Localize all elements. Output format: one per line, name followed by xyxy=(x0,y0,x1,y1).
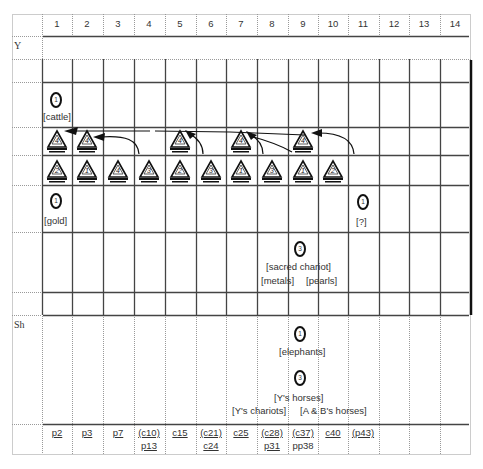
circle-number: 1 xyxy=(52,197,60,204)
triangle-symbol-icon: 1 xyxy=(292,159,314,183)
column-header: 6 xyxy=(196,18,226,29)
circle-number: 3 xyxy=(296,374,304,381)
column-header: 7 xyxy=(226,18,256,29)
triangle-symbol-icon: 2 xyxy=(322,159,344,183)
circle-symbol-sacred-chariot: 3 xyxy=(294,241,306,257)
label-ys-chariots: [Y's chariots] xyxy=(232,405,286,416)
footer-ref-secondary: pp38 xyxy=(288,440,318,451)
triangle-number: 2 xyxy=(322,167,344,174)
circle-number: 1 xyxy=(52,96,60,103)
column-header: 11 xyxy=(348,18,378,29)
column-header: 9 xyxy=(288,18,318,29)
triangle-number: 4 xyxy=(46,137,68,144)
row-label-y: Y xyxy=(14,40,21,51)
label-pearls: [pearls] xyxy=(306,275,337,286)
label-ys-horses: [Y's horses] xyxy=(274,392,323,403)
circle-symbol-elephants: 1 xyxy=(294,326,306,342)
triangle-symbol-icon: 1 xyxy=(76,159,98,183)
column-header: 2 xyxy=(72,18,102,29)
footer-ref-secondary: p31 xyxy=(257,440,287,451)
footer-ref: c40 xyxy=(318,427,348,438)
label-ab-horses: [A & B's horses] xyxy=(300,405,367,416)
circle-number: 3 xyxy=(296,245,304,252)
label-cattle: [cattle] xyxy=(43,111,71,122)
triangle-symbol-icon: 2 xyxy=(169,159,191,183)
circle-symbol-cattle: 1 xyxy=(50,92,62,108)
triangle-number: 4 xyxy=(76,137,98,144)
column-header: 3 xyxy=(103,18,133,29)
label-gold: [gold] xyxy=(44,215,67,226)
label-metals: [metals] xyxy=(261,275,294,286)
footer-ref: p2 xyxy=(42,427,72,438)
footer-ref: c15 xyxy=(165,427,195,438)
triangle-number: 1 xyxy=(76,167,98,174)
triangle-symbol-icon: 4 xyxy=(230,129,252,153)
footer-ref-secondary: p13 xyxy=(134,440,164,451)
triangle-symbol-icon: 3 xyxy=(200,159,222,183)
footer-ref: (c28) xyxy=(257,427,287,438)
circle-symbol-horses: 3 xyxy=(294,370,306,386)
grid-lines xyxy=(0,0,483,469)
triangle-number: 4 xyxy=(169,137,191,144)
footer-ref: p3 xyxy=(72,427,102,438)
footer-ref: (c37) xyxy=(288,427,318,438)
triangle-symbol-icon: 3 xyxy=(261,159,283,183)
circle-symbol-unknown: 1 xyxy=(357,194,369,210)
footer-ref: (c10) xyxy=(134,427,164,438)
footer-ref: p7 xyxy=(103,427,133,438)
column-header: 12 xyxy=(379,18,409,29)
triangle-number: 4 xyxy=(107,167,129,174)
footer-ref: c25 xyxy=(226,427,256,438)
triangle-symbol-icon: 4 xyxy=(76,129,98,153)
circle-number: 1 xyxy=(359,198,367,205)
column-header: 13 xyxy=(409,18,439,29)
row-label-sh: Sh xyxy=(14,319,25,330)
triangle-number: 2 xyxy=(169,167,191,174)
column-header: 5 xyxy=(165,18,195,29)
label-sacred-chariot: [sacred chariot] xyxy=(266,261,331,272)
triangle-number: 2 xyxy=(46,167,68,174)
circle-symbol-gold: 1 xyxy=(50,193,62,209)
triangle-number: 3 xyxy=(200,167,222,174)
circle-number: 1 xyxy=(296,330,304,337)
label-unknown: [?] xyxy=(356,216,367,227)
label-elephants: [elephants] xyxy=(279,346,325,357)
triangle-symbol-icon: 4 xyxy=(169,129,191,153)
triangle-number: 1 xyxy=(230,167,252,174)
column-header: 10 xyxy=(318,18,348,29)
column-header: 14 xyxy=(440,18,470,29)
footer-ref: (c21) xyxy=(196,427,226,438)
triangle-symbol-icon: 3 xyxy=(138,159,160,183)
triangle-symbol-icon: 4 xyxy=(107,159,129,183)
footer-ref: (p43) xyxy=(348,427,378,438)
column-header: 1 xyxy=(42,18,72,29)
column-header: 8 xyxy=(257,18,287,29)
triangle-symbol-icon: 4 xyxy=(46,129,68,153)
column-header: 4 xyxy=(134,18,164,29)
footer-ref-secondary: c24 xyxy=(196,440,226,451)
triangle-number: 3 xyxy=(261,167,283,174)
triangle-symbol-icon: 2 xyxy=(46,159,68,183)
triangle-number: 4 xyxy=(292,137,314,144)
triangle-symbol-icon: 4 xyxy=(292,129,314,153)
triangle-number: 4 xyxy=(230,137,252,144)
triangle-number: 3 xyxy=(138,167,160,174)
triangle-number: 1 xyxy=(292,167,314,174)
triangle-symbol-icon: 1 xyxy=(230,159,252,183)
